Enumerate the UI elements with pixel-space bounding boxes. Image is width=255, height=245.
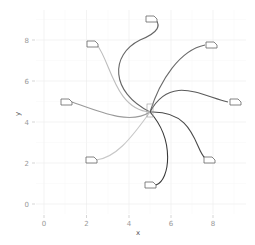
x-tick-label: 6	[169, 220, 174, 228]
x-tick-label: 0	[42, 220, 46, 228]
y-axis-title: y	[14, 112, 22, 116]
x-ticks	[44, 215, 213, 218]
x-tick-label: 4	[127, 220, 132, 228]
x-axis-title: x	[136, 229, 140, 237]
y-tick-label: 0	[25, 201, 29, 209]
x-tick-label: 2	[84, 220, 88, 228]
tag-marker-1	[146, 16, 157, 22]
x-tick-label: 8	[211, 220, 215, 228]
tag-marker-6	[86, 157, 97, 163]
tag-marker-3	[230, 99, 241, 105]
y-tick-labels: 8 6 4 2 0	[25, 37, 30, 209]
tag-marker-7	[61, 99, 72, 105]
tag-marker-8	[87, 41, 98, 47]
tag-marker-2	[206, 42, 217, 48]
y-tick-label: 2	[25, 160, 29, 168]
tag-marker-5	[145, 182, 156, 188]
chart: 8 6 4 2 0 0 2 4 6 8 x y	[0, 0, 255, 245]
x-tick-labels: 0 2 4 6 8	[42, 220, 215, 228]
y-tick-label: 6	[25, 78, 30, 86]
y-tick-label: 4	[25, 119, 30, 127]
tag-marker-4	[204, 157, 215, 163]
y-ticks	[32, 40, 35, 204]
y-tick-label: 8	[25, 37, 29, 45]
